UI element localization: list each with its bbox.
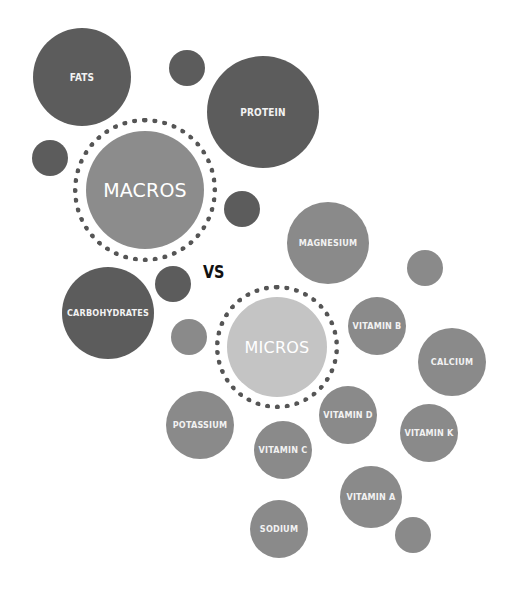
macro-fats: FATS [33, 28, 131, 126]
decor-dot [171, 319, 207, 355]
decor-dot [407, 250, 443, 286]
micro-vitamin-k: VITAMIN K [400, 404, 458, 462]
macro-carbohydrates: CARBOHYDRATES [62, 267, 154, 359]
macro-protein: PROTEIN [207, 56, 319, 168]
decor-dot [169, 50, 205, 86]
decor-dot [395, 517, 431, 553]
micro-vitamin-b: VITAMIN B [348, 297, 406, 355]
macros-hub: MACROS [86, 131, 204, 249]
micro-magnesium: MAGNESIUM [287, 202, 369, 284]
versus-label: VS [203, 262, 225, 282]
decor-dot [224, 191, 260, 227]
micro-vitamin-d: VITAMIN D [319, 386, 377, 444]
micro-calcium: CALCIUM [418, 328, 486, 396]
micro-vitamin-c: VITAMIN C [254, 421, 312, 479]
decor-dot [155, 266, 191, 302]
micros-hub: MICROS [227, 297, 327, 397]
micro-sodium: SODIUM [250, 500, 308, 558]
decor-dot [32, 140, 68, 176]
micro-vitamin-a: VITAMIN A [340, 466, 402, 528]
micro-potassium: POTASSIUM [166, 391, 234, 459]
